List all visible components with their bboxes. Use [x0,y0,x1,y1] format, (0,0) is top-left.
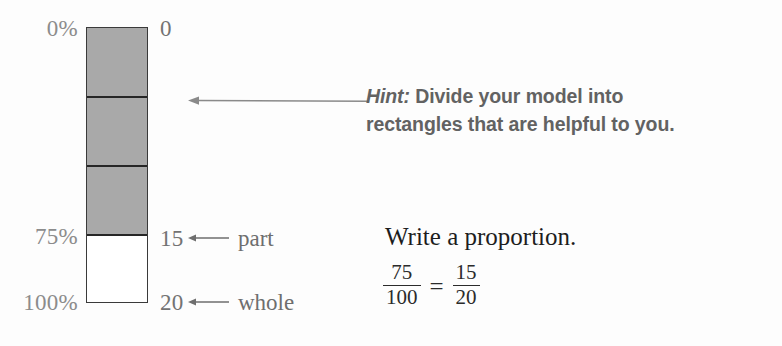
bar-divider-1 [87,96,147,98]
hint-line-1: Divide your model into [410,85,623,107]
scale-label-100-percent: 100% [0,290,78,316]
arrow-left-icon-part [188,232,230,244]
hint-lead-label: Hint: [366,85,410,107]
fraction-left-numerator: 75 [388,262,415,284]
bar-segment-2 [87,97,147,166]
bar-segment-4 [87,235,147,301]
arrow-left-icon-hint [188,94,370,108]
write-a-proportion-heading: Write a proportion. [385,223,576,251]
equals-sign: = [430,271,444,301]
value-label-0: 0 [160,16,172,42]
bar-segment-3 [87,166,147,235]
fraction-right-denominator: 20 [453,287,480,309]
hint-line-2: rectangles that are helpful to you. [366,113,675,135]
hint-text: Hint: Divide your model into rectangles … [366,83,778,138]
proportion-equation: 75 100 = 15 20 [383,262,480,309]
fraction-left: 75 100 [383,262,421,309]
fraction-left-denominator: 100 [383,287,421,309]
fraction-right: 15 20 [453,262,480,309]
arrow-left-icon-whole [188,296,230,308]
value-label-20: 20 [160,290,184,316]
bar-segment-1 [87,28,147,97]
bar-divider-3 [87,234,147,236]
value-label-15: 15 [160,226,184,252]
scale-label-0-percent: 0% [0,16,78,42]
callout-label-part: part [238,226,274,252]
callout-label-whole: whole [238,290,294,316]
fraction-right-numerator: 15 [453,262,480,284]
scale-label-75-percent: 75% [0,224,78,250]
percent-bar-model [86,27,148,303]
bar-divider-2 [87,165,147,167]
